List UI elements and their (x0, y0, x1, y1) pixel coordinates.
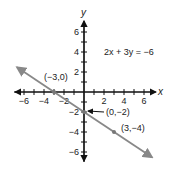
x-tick-label: 6 (141, 96, 146, 106)
point-label: (−3,0) (44, 72, 68, 82)
x-axis-label: x (157, 86, 164, 97)
point-label: (3,−4) (121, 123, 145, 133)
x-tick-label: −6 (19, 96, 29, 106)
y-tick-label: 6 (74, 27, 79, 37)
equation-label: 2x + 3y = −6 (104, 47, 154, 57)
y-tick-label: −4 (69, 127, 79, 137)
point-marker (52, 90, 56, 94)
y-tick-label: −6 (69, 147, 79, 157)
pointer-arrow-icon (88, 111, 104, 112)
x-tick-label: −4 (39, 96, 49, 106)
point-marker (112, 130, 116, 134)
x-tick-label: 4 (121, 96, 126, 106)
y-tick-label: 2 (74, 67, 79, 77)
point-label: (0,−2) (106, 107, 130, 117)
y-tick-label: 4 (74, 47, 79, 57)
x-tick-label: 2 (101, 96, 106, 106)
y-axis-label: y (80, 7, 87, 18)
point-marker (82, 110, 86, 114)
coordinate-plane: −6−4−2246642−2−4−6 (−3,0)(0,−2)(3,−4) x … (0, 0, 169, 170)
